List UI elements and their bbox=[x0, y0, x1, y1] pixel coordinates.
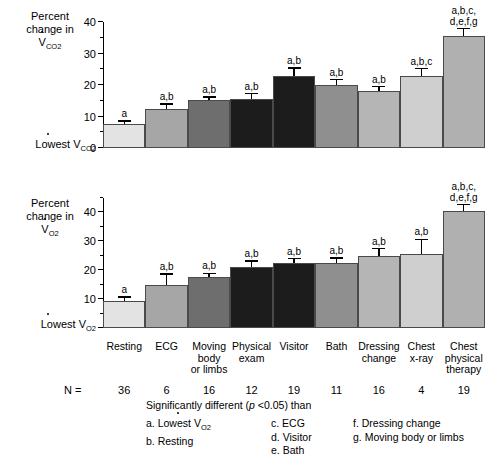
significance-annotation-vco2-6: a,b bbox=[372, 75, 386, 86]
significance-annotation-vco2-3: a,b bbox=[245, 82, 259, 93]
footnote-item: f. Dressing change bbox=[353, 417, 464, 431]
significance-annotation-vo2-6: a,b bbox=[372, 237, 386, 248]
significance-annotation-line: a,b bbox=[372, 75, 386, 86]
category-label-line: Moving bbox=[188, 341, 230, 353]
sample-size-3: 12 bbox=[230, 384, 272, 396]
error-bar-vco2-2 bbox=[208, 98, 209, 101]
footnote-column-2: c. ECGd. Visitore. Bath bbox=[271, 417, 312, 458]
error-cap-vco2-3 bbox=[245, 93, 258, 94]
category-label-1: ECG bbox=[145, 341, 187, 353]
vo2-sub2: 2 bbox=[55, 229, 59, 238]
error-bar-vo2-0 bbox=[124, 298, 125, 301]
footnote-key: b. bbox=[146, 435, 158, 447]
category-label-line: exam bbox=[230, 353, 272, 365]
category-label-4: Visitor bbox=[273, 341, 315, 353]
category-label-7: Chestx-ray bbox=[400, 341, 442, 364]
significance-annotation-line: a,b,c, bbox=[450, 182, 478, 193]
top-chart-baseline-label: Lowest VCO2 bbox=[0, 138, 96, 153]
category-label-8: Chestphysicaltherapy bbox=[443, 341, 485, 376]
significance-annotation-line: a,b,c, bbox=[450, 6, 478, 17]
y-tick-label-vco2-30: 30 bbox=[84, 48, 96, 60]
error-bar-vco2-5 bbox=[336, 80, 337, 85]
category-label-line: Chest bbox=[443, 341, 485, 353]
y-tick-vo2-35 bbox=[100, 226, 104, 227]
bar-vco2-3 bbox=[230, 99, 272, 148]
error-cap-vo2-3 bbox=[245, 260, 258, 261]
y-tick-vco2-35 bbox=[100, 37, 104, 38]
significance-annotation-vco2-2: a,b bbox=[202, 85, 216, 96]
y-tick-label-vo2-20: 20 bbox=[84, 264, 96, 276]
significance-annotation-line: a,b,c bbox=[410, 57, 432, 68]
n-row-label: N = bbox=[64, 384, 81, 396]
error-bar-vco2-3 bbox=[251, 94, 252, 99]
footnote-item: d. Visitor bbox=[271, 431, 312, 445]
lowest-sub2-bottom: 2 bbox=[92, 324, 96, 333]
vo2-v: V bbox=[41, 223, 48, 235]
significance-annotation-line: a,b bbox=[329, 68, 343, 79]
error-bar-vo2-6 bbox=[378, 249, 379, 255]
bar-vo2-5 bbox=[315, 263, 357, 328]
error-cap-vco2-6 bbox=[372, 86, 385, 87]
footnote-heading-pre: Significantly different ( bbox=[146, 399, 249, 411]
y-tick-vco2-20 bbox=[98, 84, 103, 85]
footnote-item: a. Lowest VO2 bbox=[146, 417, 211, 435]
sample-size-0: 36 bbox=[103, 384, 145, 396]
error-cap-vco2-2 bbox=[203, 96, 216, 97]
footnote-item: b. Resting bbox=[146, 435, 211, 449]
footnote-key: e. bbox=[271, 444, 283, 456]
error-cap-vo2-0 bbox=[118, 296, 131, 297]
significance-annotation-vco2-4: a,b bbox=[287, 56, 301, 67]
bar-vco2-5 bbox=[315, 85, 357, 148]
y-tick-label-vo2-10: 10 bbox=[84, 293, 96, 305]
footnote-key: f. bbox=[353, 417, 362, 429]
error-cap-vo2-8 bbox=[457, 204, 470, 205]
footnote-text: ECG bbox=[282, 417, 305, 429]
significance-annotation-line: a,b bbox=[160, 262, 174, 273]
error-cap-vo2-1 bbox=[160, 273, 173, 274]
y-tick-vco2-10 bbox=[98, 116, 103, 117]
bar-vo2-8 bbox=[443, 211, 485, 328]
significance-annotation-vco2-8: a,b,c,d,e,f,g bbox=[450, 6, 478, 27]
sample-size-6: 16 bbox=[358, 384, 400, 396]
lowest-v-top: V bbox=[73, 138, 80, 150]
error-bar-vco2-1 bbox=[166, 105, 167, 109]
category-label-line: Chest bbox=[400, 341, 442, 353]
category-label-2: Movingbodyor limbs bbox=[188, 341, 230, 376]
significance-annotation-line: a,b bbox=[245, 249, 259, 260]
sample-size-8: 19 bbox=[443, 384, 485, 396]
footnote-item: g. Moving body or limbs bbox=[353, 431, 464, 445]
category-label-line: Dressing bbox=[358, 341, 400, 353]
error-bar-vo2-1 bbox=[166, 275, 167, 285]
error-bar-vco2-7 bbox=[421, 69, 422, 75]
footnote-heading: Significantly different (p <0.05) than bbox=[146, 399, 311, 411]
sample-size-1: 6 bbox=[145, 384, 187, 396]
y-tick-label-vo2-30: 30 bbox=[84, 235, 96, 247]
category-label-3: Physicalexam bbox=[230, 341, 272, 364]
y-tick-vco2-40 bbox=[98, 21, 103, 22]
significance-annotation-line: a,b bbox=[202, 85, 216, 96]
bar-vco2-2 bbox=[188, 100, 230, 148]
sample-size-4: 19 bbox=[273, 384, 315, 396]
footnote-text: Dressing change bbox=[362, 417, 441, 429]
y-tick-vo2-15 bbox=[100, 284, 104, 285]
error-cap-vco2-0 bbox=[118, 120, 131, 121]
significance-annotation-line: a,b bbox=[414, 227, 428, 238]
category-label-line: Resting bbox=[103, 341, 145, 353]
bar-vo2-6 bbox=[358, 256, 400, 328]
significance-annotation-line: a,b bbox=[287, 247, 301, 258]
error-cap-vo2-6 bbox=[372, 248, 385, 249]
bar-vo2-4 bbox=[273, 263, 315, 328]
error-bar-vco2-4 bbox=[293, 69, 294, 76]
bar-vco2-1 bbox=[145, 109, 187, 148]
error-bar-vco2-0 bbox=[124, 122, 125, 125]
lowest-text-bottom: Lowest bbox=[41, 318, 76, 330]
bottom-chart-y-axis-title: Percent change in VO2 bbox=[2, 197, 98, 240]
footnote-text: Lowest bbox=[158, 417, 194, 429]
bar-vco2-7 bbox=[400, 76, 442, 148]
footnote-text: Moving body or limbs bbox=[365, 431, 464, 443]
footnote-column-1: a. Lowest VO2b. Resting bbox=[146, 417, 211, 448]
category-label-line: x-ray bbox=[400, 353, 442, 365]
y-tick-vo2-25 bbox=[100, 255, 104, 256]
vco2-sub2: 2 bbox=[57, 42, 61, 51]
